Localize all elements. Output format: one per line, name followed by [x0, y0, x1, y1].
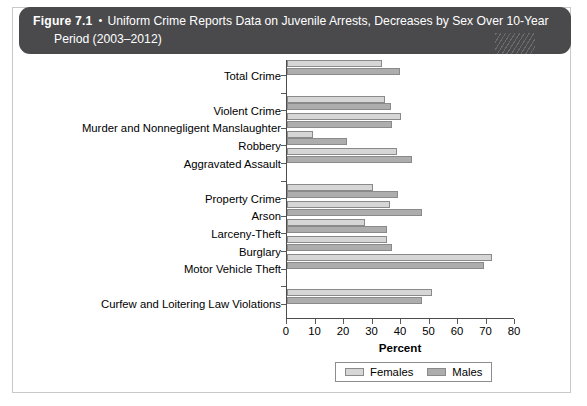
category-label: Total Crime	[224, 70, 281, 82]
x-axis-tick-label: 80	[508, 325, 521, 337]
x-axis-title: Percent	[286, 341, 514, 354]
y-axis-tick	[281, 181, 286, 182]
bar-females	[287, 236, 387, 243]
y-axis-tick	[281, 198, 286, 199]
legend-label: Females	[370, 366, 413, 378]
figure-bullet: •	[93, 14, 108, 26]
category-label: Property Crime	[205, 193, 281, 205]
x-axis-tick-label: 0	[283, 325, 289, 337]
category-label: Curfew and Loitering Law Violations	[101, 298, 281, 310]
x-axis-tick	[400, 319, 401, 324]
category-label: Larceny-Theft	[211, 228, 281, 240]
y-axis-tick	[281, 269, 286, 270]
y-axis-tick	[281, 286, 286, 287]
category-label: Aggravated Assault	[184, 158, 281, 170]
category-label: Murder and Nonnegligent Manslaughter	[82, 122, 281, 134]
bar-males	[287, 103, 391, 110]
bar-females	[287, 60, 382, 67]
figure-title-line-2: Period (2003–2012)	[33, 31, 557, 49]
category-label: Motor Vehicle Theft	[184, 263, 281, 275]
bar-females	[287, 201, 390, 208]
category-label: Robbery	[238, 140, 281, 152]
legend-item: Males	[427, 366, 482, 378]
x-axis-tick-label: 10	[308, 325, 321, 337]
x-axis-tick	[457, 319, 458, 324]
figure-title-line-1: Uniform Crime Reports Data on Juvenile A…	[107, 14, 548, 28]
y-axis-tick	[281, 163, 286, 164]
y-axis-tick	[281, 110, 286, 111]
x-axis-tick-label: 40	[394, 325, 407, 337]
category-label: Arson	[251, 210, 281, 222]
category-label: Violent Crime	[213, 105, 281, 117]
y-axis-tick	[281, 304, 286, 305]
chart-legend: FemalesMales	[335, 362, 492, 382]
bar-females	[287, 219, 365, 226]
bar-males	[287, 121, 392, 128]
bar-females	[287, 184, 373, 191]
bar-females	[287, 96, 385, 103]
bar-males	[287, 226, 387, 233]
legend-swatch-females	[345, 368, 364, 376]
x-axis-tick-label: 30	[365, 325, 378, 337]
legend-swatch-males	[427, 368, 446, 376]
figure-header-banner: Figure 7.1•Uniform Crime Reports Data on…	[19, 7, 571, 54]
x-axis-tick	[286, 319, 287, 324]
legend-item: Females	[345, 366, 413, 378]
category-axis-labels: Total CrimeViolent CrimeMurder and Nonne…	[13, 60, 286, 318]
bar-males	[287, 297, 422, 304]
x-axis-tick-label: 50	[422, 325, 435, 337]
y-axis-tick	[281, 145, 286, 146]
x-axis-tick	[486, 319, 487, 324]
bar-females	[287, 131, 313, 138]
x-axis-tick-label: 60	[451, 325, 464, 337]
chart-plot-region: Total CrimeViolent CrimeMurder and Nonne…	[13, 60, 570, 393]
y-axis-tick	[281, 216, 286, 217]
category-label: Burglary	[239, 246, 281, 258]
bar-females	[287, 148, 397, 155]
y-axis-tick	[281, 251, 286, 252]
x-axis-tick	[514, 319, 515, 324]
y-axis-tick	[281, 75, 286, 76]
legend-label: Males	[452, 366, 482, 378]
bar-females	[287, 113, 401, 120]
x-axis-tick	[429, 319, 430, 324]
bar-females	[287, 289, 432, 296]
x-axis-tick	[343, 319, 344, 324]
bars-container	[286, 60, 570, 318]
bar-males	[287, 244, 392, 251]
bar-males	[287, 262, 484, 269]
bar-females	[287, 254, 492, 261]
bar-males	[287, 156, 412, 163]
x-axis-tick-label: 20	[337, 325, 350, 337]
x-axis-tick	[315, 319, 316, 324]
bar-males	[287, 209, 422, 216]
y-axis-tick	[281, 233, 286, 234]
y-axis-tick	[281, 128, 286, 129]
y-axis-tick	[281, 93, 286, 94]
bar-males	[287, 68, 400, 75]
x-axis-tick	[372, 319, 373, 324]
figure-number: Figure 7.1	[33, 14, 93, 28]
figure-header-line-1: Figure 7.1•Uniform Crime Reports Data on…	[33, 12, 557, 31]
bar-males	[287, 191, 398, 198]
x-axis-tick-label: 70	[479, 325, 492, 337]
bar-males	[287, 138, 347, 145]
